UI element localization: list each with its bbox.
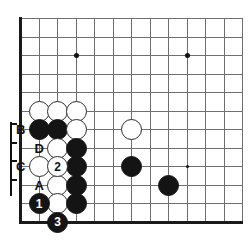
black-stone-d6[interactable] <box>47 119 68 140</box>
grid-line-vertical <box>113 18 114 222</box>
white-stone-h6[interactable] <box>121 119 142 140</box>
grid-line-vertical <box>187 18 188 222</box>
grid-line-vertical <box>224 18 225 222</box>
label-tick-d <box>10 142 17 144</box>
point-label-b: B <box>16 123 25 136</box>
stone-move-number: 1 <box>36 198 43 210</box>
go-board-diagram: BDCA213 <box>0 0 249 240</box>
point-label-d: D <box>35 142 44 155</box>
stone-move-number: 3 <box>54 216 61 228</box>
star-point-upper-left <box>74 53 79 58</box>
grid-line-vertical <box>205 18 206 222</box>
grid-line-vertical <box>150 18 151 222</box>
grid-line-horizontal <box>20 74 242 75</box>
grid-line-horizontal <box>20 18 242 19</box>
label-axis-line <box>10 122 12 196</box>
grid-line-horizontal <box>20 37 242 38</box>
black-stone-i9[interactable] <box>158 175 179 196</box>
black-stone-h8[interactable] <box>121 156 142 177</box>
star-point-lower-right <box>186 165 189 168</box>
black-stone-e10[interactable] <box>66 193 87 214</box>
grid-line-horizontal <box>20 55 242 56</box>
white-stone-d10[interactable] <box>47 193 68 214</box>
black-stone-move-1[interactable]: 1 <box>29 193 50 214</box>
black-stone-move-3[interactable]: 3 <box>47 212 68 233</box>
point-label-a: A <box>35 179 44 192</box>
white-stone-move-2[interactable]: 2 <box>47 156 68 177</box>
white-stone-e6[interactable] <box>66 119 87 140</box>
star-point-upper-right <box>185 53 190 58</box>
stone-move-number: 2 <box>54 161 61 173</box>
point-label-c: C <box>16 160 25 173</box>
grid-line-vertical <box>94 18 95 222</box>
grid-line-vertical <box>242 18 243 222</box>
board-edge-left <box>19 17 22 224</box>
label-tick-a <box>10 179 17 181</box>
black-stone-e8[interactable] <box>66 156 87 177</box>
grid-line-horizontal <box>20 92 242 93</box>
